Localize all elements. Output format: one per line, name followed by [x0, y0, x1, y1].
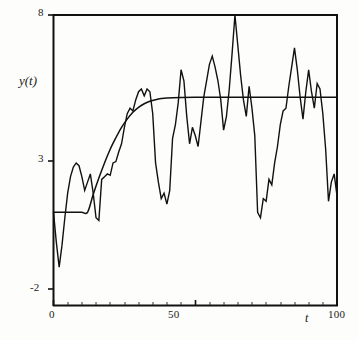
plot-canvas — [0, 0, 358, 340]
chart-figure: 8 3 -2 0 50 100 y(t) t — [0, 0, 358, 340]
y-tick-label-3: 3 — [38, 152, 44, 164]
x-tick-label-100: 100 — [328, 308, 345, 320]
x-axis-title: t — [305, 311, 308, 326]
x-tick-label-0: 0 — [49, 308, 55, 320]
series-mean-response — [54, 97, 338, 213]
y-tick-label-8: 8 — [38, 6, 44, 18]
y-tick-label-minus2: -2 — [30, 281, 40, 293]
x-tick-label-50: 50 — [168, 308, 179, 320]
y-axis-title: y(t) — [19, 73, 37, 89]
series-simulated-realization — [54, 15, 338, 267]
